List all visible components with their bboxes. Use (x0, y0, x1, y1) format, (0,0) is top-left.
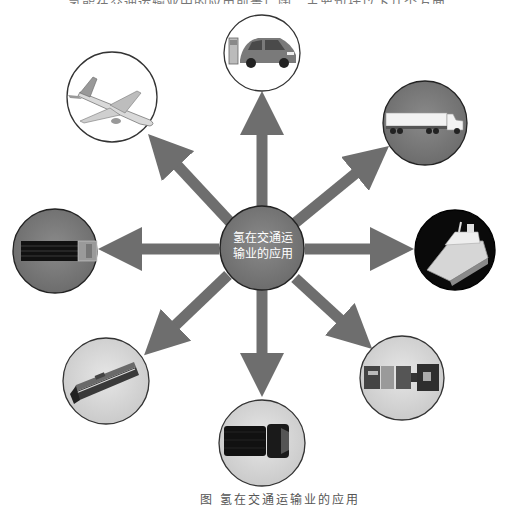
bus-top-view-icon (21, 241, 97, 261)
arrow-up-right (295, 160, 372, 223)
center-hub-label: 氢在交通运 输业的应用 (222, 230, 304, 262)
truck-top-view-icon (364, 364, 439, 391)
node-ship (415, 210, 495, 290)
node-train (63, 338, 149, 424)
arrow-down-left (160, 275, 228, 340)
node-bus (13, 209, 97, 293)
figure-caption: 图 氢在交通运输业的应用 (160, 490, 400, 507)
arrow-down-right (295, 278, 356, 334)
node-truck-bottom (360, 336, 444, 420)
center-label-line-2: 输业的应用 (222, 246, 304, 262)
node-plane (67, 52, 157, 142)
node-truck-top (383, 81, 467, 165)
arrow-up-left (163, 150, 230, 222)
node-car (224, 15, 300, 91)
node-pickup (219, 400, 305, 486)
center-label-line-1: 氢在交通运 (222, 230, 304, 246)
pickup-truck-top-view-icon (224, 424, 289, 458)
